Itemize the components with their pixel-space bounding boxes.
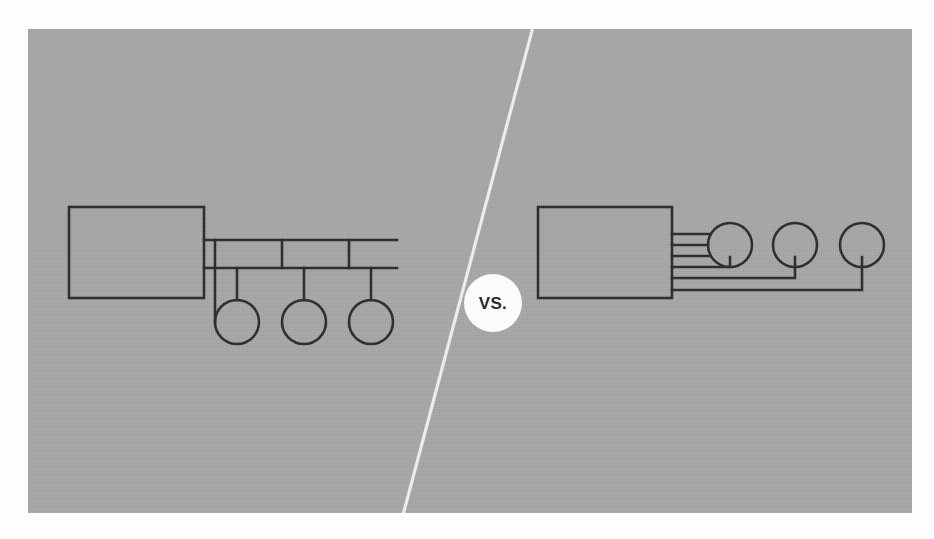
vs-badge-label: VS. <box>479 295 507 312</box>
ptp-controller-block <box>538 207 672 298</box>
diagonal-divider-line <box>403 29 533 513</box>
scanned-page: VS. <box>0 0 934 539</box>
bus-device-node-2 <box>282 300 326 344</box>
bus-controller-block <box>69 207 204 298</box>
ptp-link-6 <box>672 257 862 290</box>
point-to-point-topology-diagram <box>538 207 884 298</box>
bus-device-node-3 <box>349 300 393 344</box>
bus-device-node-1 <box>215 300 259 344</box>
figure-panel: VS. <box>28 29 912 513</box>
topology-figure <box>28 29 912 513</box>
vs-badge: VS. <box>464 274 522 332</box>
bus-topology-diagram <box>69 207 397 344</box>
